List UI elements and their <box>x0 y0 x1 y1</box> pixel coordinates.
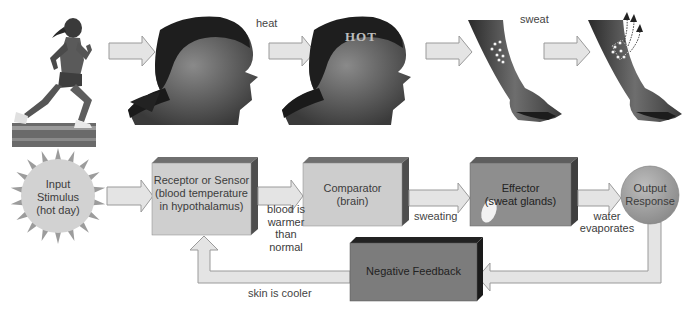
blood-line2: warmer <box>268 216 305 229</box>
blood-line3: than normal <box>258 228 314 253</box>
edge-label-blood-warmer: blood is warmer than normal <box>258 209 314 247</box>
edge-label-water-evaporates: water evaporates <box>577 209 637 235</box>
arrow-hot-head-to-arm <box>426 36 472 66</box>
effector-label: Effector (sweat glands) <box>470 181 571 209</box>
comparator-line2: (brain) <box>337 195 369 208</box>
input-line2: Stimulus <box>37 191 79 204</box>
water-line1: water <box>594 210 621 223</box>
output-line1: Output <box>633 182 666 195</box>
arrow-input-to-receptor <box>107 180 153 212</box>
blood-line1: blood is <box>267 203 305 216</box>
output-line2: Response <box>625 195 675 208</box>
input-line1: Input <box>46 178 70 191</box>
receptor-line2: (blood temperature <box>155 187 248 200</box>
arrow-arm-to-arm-evaporation <box>544 36 590 66</box>
arrow-comparator-to-effector <box>409 183 470 213</box>
receptor-label: Receptor or Sensor (blood temperature in… <box>152 172 251 214</box>
arm-sweat-glands-image <box>468 20 562 122</box>
input-line3: (hot day) <box>36 204 79 217</box>
output-label: Output Response <box>621 181 679 209</box>
input-stimulus-label: Input Stimulus (hot day) <box>28 176 88 218</box>
label-hot-overlay: HOT <box>345 31 377 43</box>
head-normal-image <box>128 17 258 125</box>
receptor-line3: in hypothalamus) <box>160 200 244 213</box>
effector-line1: Effector <box>502 182 540 195</box>
arrow-runner-to-head <box>109 36 155 66</box>
water-line2: evaporates <box>580 222 634 235</box>
effector-line2: (sweat glands) <box>485 195 557 208</box>
edge-label-sweating: sweating <box>414 210 457 222</box>
arrow-head-to-hot-head <box>269 36 315 66</box>
diagram-canvas <box>0 0 694 314</box>
comparator-label: Comparator (brain) <box>303 181 402 209</box>
arm-evaporation-image <box>588 12 682 122</box>
label-heat: heat <box>256 17 277 29</box>
label-sweat: sweat <box>520 13 549 25</box>
negative-feedback-label: Negative Feedback <box>350 262 477 280</box>
runner-image <box>12 18 96 147</box>
receptor-line1: Receptor or Sensor <box>154 174 249 187</box>
edge-label-skin-cooler: skin is cooler <box>248 287 312 299</box>
comparator-line1: Comparator <box>323 182 381 195</box>
